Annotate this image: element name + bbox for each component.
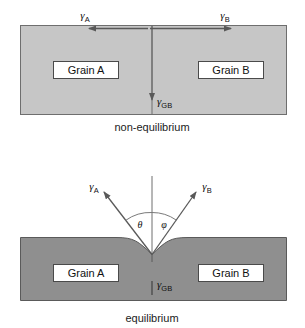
grain-boundary-figure: γA γB γGB Grain A Grain B non-equilibriu… — [0, 0, 305, 328]
grain-b-label-bottom: Grain B — [212, 267, 249, 279]
grain-a-label-top: Grain A — [68, 64, 105, 76]
caption-non-equilibrium: non-equilibrium — [114, 121, 189, 133]
caption-equilibrium: equilibrium — [125, 312, 178, 324]
gamma-b-label-bottom: γB — [202, 180, 211, 195]
panel-non-equilibrium: γA γB γGB Grain A Grain B non-equilibriu… — [21, 9, 287, 133]
grain-b-label-box-top: Grain B — [199, 62, 264, 79]
theta-label: θ — [138, 219, 143, 230]
gamma-a-label-bottom: γA — [89, 180, 98, 195]
phi-label: φ — [161, 219, 167, 230]
gamma-b-label-top: γB — [220, 9, 229, 24]
grain-b-label-top: Grain B — [212, 64, 249, 76]
grain-a-label-box-bottom: Grain A — [54, 265, 119, 282]
grain-a-label-bottom: Grain A — [68, 267, 105, 279]
panel-equilibrium: θ φ γA γB γGB Grain A Grain B equilibriu… — [21, 176, 287, 324]
grain-a-label-box-top: Grain A — [54, 62, 119, 79]
grain-b-label-box-bottom: Grain B — [199, 265, 264, 282]
gamma-a-label-top: γA — [80, 9, 89, 24]
